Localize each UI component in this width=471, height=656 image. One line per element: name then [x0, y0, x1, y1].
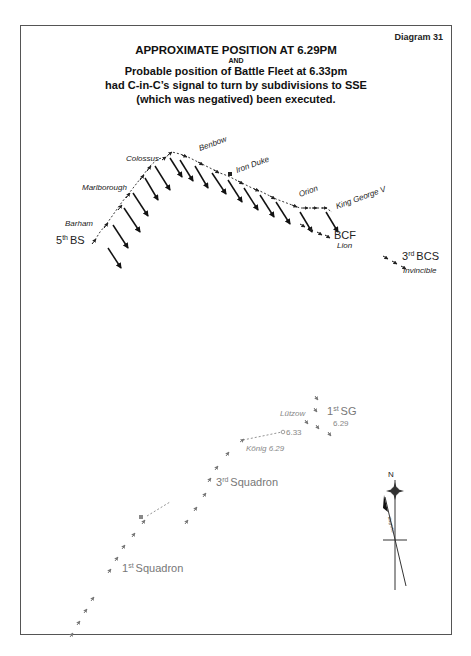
probable-633-positions: [108, 158, 338, 268]
bcf-ships: [300, 224, 330, 238]
label-barham: Barham: [65, 219, 93, 228]
flagship-marker: [228, 172, 232, 176]
label-lutzow: Lützow: [280, 409, 307, 418]
compass-rose: N Magnetic: [383, 470, 407, 590]
label-3rd-squadron: 3rdSquadron: [216, 476, 278, 488]
flagship-marker-german: [139, 515, 143, 519]
label-iron-duke: Iron Duke: [235, 154, 271, 175]
label-bcf: BCF: [334, 229, 356, 241]
british-battle-line: [92, 152, 332, 244]
label-marlborough: Marlborough: [82, 183, 127, 192]
konig-633-marker: [281, 430, 285, 434]
compass-north-label: N: [388, 470, 394, 479]
label-colossus: Colossus: [126, 154, 159, 163]
label-benbow: Benbow: [198, 134, 229, 153]
label-orion: Orion: [298, 184, 320, 199]
label-5th-bs: 5thBS: [56, 234, 85, 246]
label-king-george-v: King George V: [335, 184, 388, 211]
label-1st-sg: 1stSG: [327, 405, 356, 417]
label-konig: König 6.29: [246, 444, 285, 453]
label-konig-633: 6.33: [286, 428, 302, 437]
label-1st-sg-time: 6.29: [333, 419, 349, 428]
compass-magnetic-label: Magnetic: [387, 516, 396, 533]
label-lion: Lion: [337, 241, 353, 250]
label-1st-squadron: 1stSquadron: [122, 562, 183, 574]
battle-map: Colossus Benbow Iron Duke Marlborough Or…: [0, 0, 471, 656]
label-3rd-bcs: 3rdBCS: [402, 250, 439, 262]
label-invincible: Invincible: [403, 266, 437, 275]
